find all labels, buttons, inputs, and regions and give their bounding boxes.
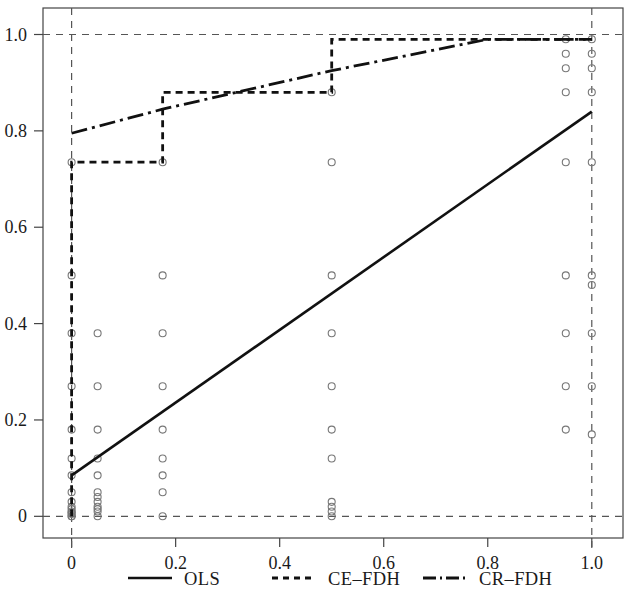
data-point bbox=[159, 330, 166, 337]
legend-label-ce-fdh: CE–FDH bbox=[328, 569, 400, 589]
data-point bbox=[159, 455, 166, 462]
data-point bbox=[159, 472, 166, 479]
data-point bbox=[94, 383, 101, 390]
axis-ticks bbox=[34, 35, 592, 548]
data-point bbox=[94, 330, 101, 337]
legend: OLSCE–FDHCR–FDH bbox=[128, 569, 552, 589]
data-point bbox=[159, 426, 166, 433]
series-lines bbox=[72, 39, 592, 516]
data-point bbox=[562, 426, 569, 433]
data-point bbox=[562, 65, 569, 72]
data-point bbox=[562, 272, 569, 279]
data-point bbox=[562, 159, 569, 166]
y-tick-label: 0.6 bbox=[5, 217, 28, 237]
legend-label-cr-fdh: CR–FDH bbox=[479, 569, 552, 589]
data-point bbox=[94, 426, 101, 433]
y-tick-label: 0.8 bbox=[5, 121, 28, 141]
data-point bbox=[328, 159, 335, 166]
data-point bbox=[562, 50, 569, 57]
data-point bbox=[159, 272, 166, 279]
data-point bbox=[562, 383, 569, 390]
data-point bbox=[94, 472, 101, 479]
data-point bbox=[328, 330, 335, 337]
scatter-plot: 00.20.40.60.81.000.20.40.60.81.0 OLSCE–F… bbox=[0, 0, 631, 603]
legend-label-ols: OLS bbox=[184, 569, 220, 589]
data-point bbox=[328, 426, 335, 433]
y-tick-label: 1.0 bbox=[5, 25, 28, 45]
data-point bbox=[328, 272, 335, 279]
data-point bbox=[562, 330, 569, 337]
data-point bbox=[562, 89, 569, 96]
series-line-ce-fdh bbox=[72, 39, 592, 516]
y-tick-label: 0 bbox=[18, 506, 27, 526]
data-point bbox=[328, 383, 335, 390]
data-points bbox=[68, 36, 595, 520]
figure-container: 00.20.40.60.81.000.20.40.60.81.0 OLSCE–F… bbox=[0, 0, 631, 603]
data-point bbox=[588, 431, 595, 438]
x-tick-label: 1.0 bbox=[581, 553, 604, 573]
x-tick-label: 0 bbox=[67, 553, 76, 573]
data-point bbox=[159, 383, 166, 390]
y-tick-label: 0.2 bbox=[5, 410, 28, 430]
y-tick-label: 0.4 bbox=[5, 314, 28, 334]
data-point bbox=[328, 455, 335, 462]
data-point bbox=[159, 489, 166, 496]
x-tick-label: 0.4 bbox=[268, 553, 291, 573]
